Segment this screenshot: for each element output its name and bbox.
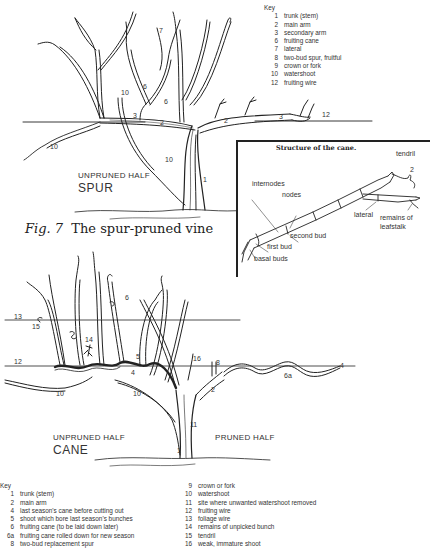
key-item: 15tendril [178, 532, 316, 540]
callout-8: 8 [216, 359, 220, 366]
key-item: 2main arm [0, 499, 134, 507]
callout-6a: 6a [284, 372, 292, 379]
cane-unpruned-half-label: UNPRUNED HALF [53, 433, 125, 442]
key-item: 9crown or fork [178, 482, 316, 490]
key-title: Key [0, 482, 134, 490]
cane-key-column-1: Key 1trunk (stem) 2main arm 4last season… [0, 482, 134, 548]
key-item: 16weak, immature shoot [178, 540, 316, 548]
callout-12: 12 [14, 358, 22, 365]
callout-16: 16 [193, 355, 201, 362]
key-item: 8two-bud replacement spur [0, 540, 134, 548]
key-item: 12fruiting wire [178, 507, 316, 515]
cane-pruned-half-label: PRUNED HALF [215, 433, 275, 442]
callout-4: 4 [340, 362, 344, 369]
callout-11: 11 [190, 421, 197, 428]
callout-1: 1 [177, 447, 181, 454]
key-item: 5shoot which bore last season's bunches [0, 515, 134, 523]
key-item: 4last season's cane before cutting out [0, 507, 134, 515]
callout-2: 2 [211, 386, 215, 393]
key-item: 13foliage wire [178, 515, 316, 523]
callout-4: 4 [131, 369, 135, 376]
key-item: 6afruiting cane rolled down for new seas… [0, 532, 134, 540]
cane-type-label: CANE [53, 443, 88, 457]
key-item: 11site where unwanted watershoot removed [178, 499, 316, 507]
key-item: 14remains of unpicked bunch [178, 523, 316, 531]
key-item: 1trunk (stem) [0, 490, 134, 498]
key-item: 10watershoot [178, 490, 316, 498]
cane-key-column-2: 9crown or fork 10watershoot 11site where… [178, 482, 316, 548]
callout-15: 15 [32, 323, 40, 330]
key-item: 6fruiting cane (to be laid down later) [0, 523, 134, 531]
callout-10: 10 [133, 390, 141, 397]
callout-5: 5 [136, 353, 140, 360]
callout-14: 14 [85, 336, 93, 343]
callout-13: 13 [14, 313, 22, 320]
callout-6: 6 [125, 294, 129, 301]
callout-10: 10 [56, 390, 64, 397]
